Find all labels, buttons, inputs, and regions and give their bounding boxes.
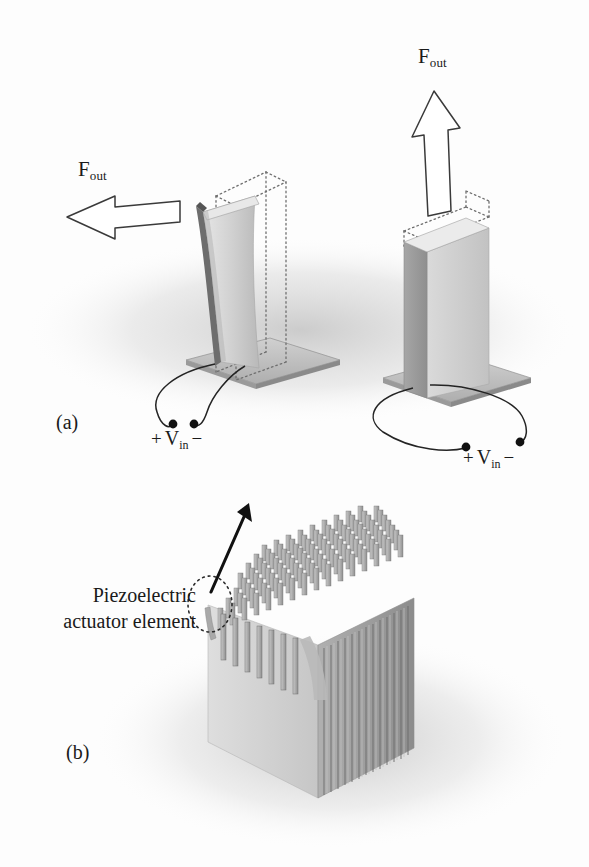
v-in-left-minus-sign: −: [189, 428, 206, 449]
callout-label-line2: actuator element: [36, 609, 196, 635]
v-in-right-plus-sign: +: [460, 447, 477, 468]
f-out-label-right: Fout: [418, 45, 447, 67]
f-out-arrow-up: [412, 91, 460, 216]
v-in-right-subscript: in: [491, 457, 500, 471]
v-in-label-left: +Vin−: [148, 428, 205, 449]
callout-label: Piezoelectric actuator element: [36, 583, 196, 634]
callout-label-line1: Piezoelectric: [36, 583, 196, 609]
v-in-right-symbol: V: [477, 446, 491, 468]
f-out-label-left: Fout: [78, 158, 107, 180]
figure-root: Fout Fout +Vin− +Vin− (a) (b) Piezoelect…: [0, 0, 589, 867]
v-in-left-plus-sign: +: [148, 428, 165, 449]
v-in-label-right: +Vin−: [460, 447, 517, 468]
extensional-actuator-beam: [404, 218, 489, 398]
panel-label-a: (a): [56, 412, 78, 433]
v-in-left-subscript: in: [179, 438, 188, 452]
v-in-right-minus-sign: −: [501, 447, 518, 468]
f-out-arrow-left: [67, 196, 180, 239]
panel-label-b: (b): [66, 742, 89, 763]
figure-artwork: [0, 0, 589, 867]
v-in-left-symbol: V: [165, 427, 179, 449]
